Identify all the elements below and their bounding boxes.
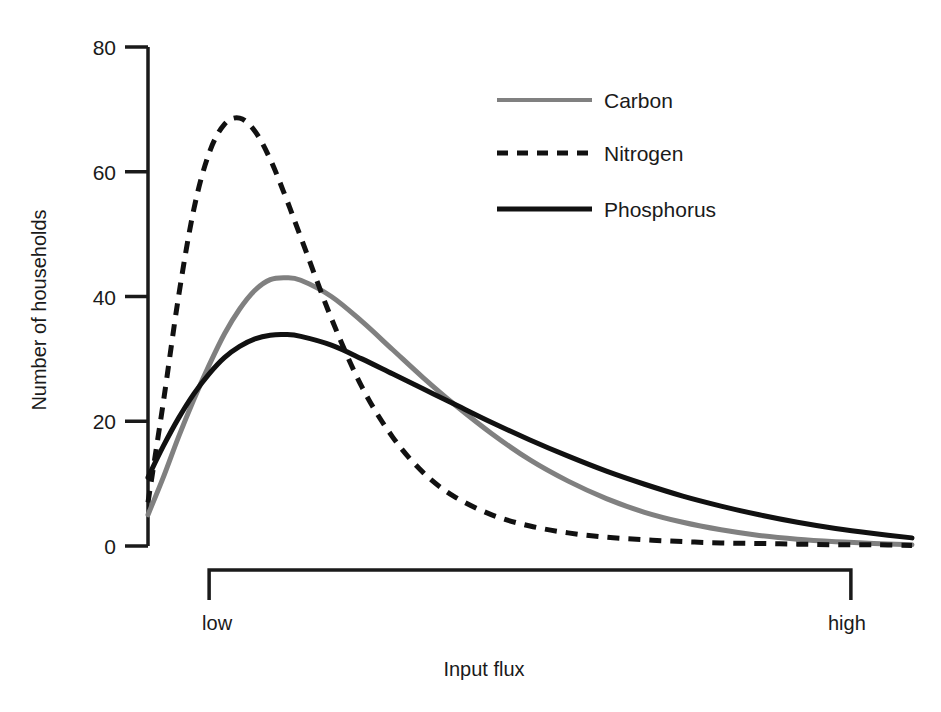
x-axis-title: Input flux bbox=[443, 658, 524, 680]
series-line-carbon bbox=[148, 278, 912, 545]
y-axis-tick-label: 0 bbox=[104, 535, 116, 558]
y-axis-tick-labels: 020406080 bbox=[93, 36, 116, 558]
legend-label-carbon: Carbon bbox=[604, 89, 673, 112]
x-axis-label-low: low bbox=[202, 612, 233, 634]
legend-label-phosphorus: Phosphorus bbox=[604, 198, 716, 221]
series-layer bbox=[148, 118, 912, 546]
y-axis-tick-label: 40 bbox=[93, 286, 116, 309]
series-line-phosphorus bbox=[148, 334, 912, 537]
x-axis-label-high: high bbox=[828, 612, 866, 634]
legend-label-nitrogen: Nitrogen bbox=[604, 142, 683, 165]
y-axis-tick-label: 60 bbox=[93, 161, 116, 184]
y-axis-title: Number of households bbox=[28, 209, 50, 410]
chart-canvas: 020406080 Number of households low high … bbox=[0, 0, 941, 712]
chart-legend: CarbonNitrogenPhosphorus bbox=[497, 89, 716, 221]
x-axis: low high Input flux bbox=[202, 570, 866, 680]
y-axis-tick-label: 20 bbox=[93, 410, 116, 433]
y-axis: 020406080 Number of households bbox=[28, 36, 148, 558]
series-line-nitrogen bbox=[148, 118, 912, 546]
y-axis-tick-label: 80 bbox=[93, 36, 116, 59]
x-axis-bracket bbox=[209, 570, 851, 600]
chart-figure: 020406080 Number of households low high … bbox=[0, 0, 941, 712]
y-axis-ticks bbox=[125, 47, 148, 546]
